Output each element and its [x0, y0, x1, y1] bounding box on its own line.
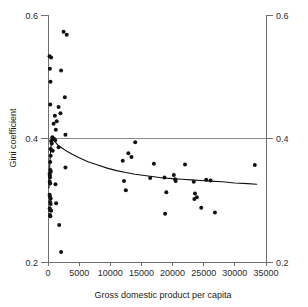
data-point	[55, 119, 59, 123]
x-tick-label: 0	[45, 268, 50, 278]
data-point	[57, 105, 61, 109]
data-point	[253, 163, 257, 167]
x-tick-label: 30000	[222, 268, 247, 278]
data-point	[63, 95, 67, 99]
data-point	[53, 138, 57, 142]
tick-marks	[41, 15, 273, 266]
data-point	[122, 179, 126, 183]
data-point	[52, 122, 56, 126]
data-point	[48, 103, 52, 107]
data-point	[65, 33, 69, 37]
data-point	[199, 206, 203, 210]
data-point	[53, 114, 57, 118]
data-point	[54, 201, 58, 205]
y-tick-labels-left: 0.20.40.6	[25, 11, 38, 268]
data-point	[62, 30, 66, 34]
data-point	[174, 179, 178, 183]
data-point	[59, 250, 63, 254]
data-point	[164, 190, 168, 194]
data-point	[193, 191, 197, 195]
data-point	[152, 162, 156, 166]
data-point	[63, 133, 67, 137]
x-tick-labels: 05000100001500020000250003000035000	[45, 268, 278, 278]
y-tick-label-left: 0.2	[25, 258, 38, 268]
data-point	[54, 128, 58, 132]
data-point	[192, 197, 196, 201]
data-point	[48, 214, 52, 218]
data-point	[133, 140, 137, 144]
data-point	[48, 182, 52, 186]
scatter-points	[48, 30, 257, 254]
data-point	[49, 209, 53, 213]
x-tick-label: 20000	[160, 268, 185, 278]
data-point	[49, 154, 53, 158]
y-tick-label-right: 0.6	[276, 11, 289, 21]
y-axis-title: Gini coefficient	[8, 108, 18, 167]
y-tick-labels-right: 0.20.40.6	[276, 11, 289, 268]
data-point	[63, 166, 67, 170]
data-point	[183, 162, 187, 166]
chart-canvas: 05000100001500020000250003000035000 0.20…	[0, 0, 308, 307]
data-point	[162, 175, 166, 179]
y-tick-label-right: 0.4	[276, 134, 289, 144]
y-tick-label-left: 0.6	[25, 11, 38, 21]
data-point	[49, 56, 53, 60]
data-point	[129, 155, 133, 159]
data-point	[57, 223, 61, 227]
data-point	[53, 182, 57, 186]
data-point	[213, 211, 217, 215]
data-point	[48, 160, 52, 164]
data-point	[57, 145, 61, 149]
data-point	[59, 69, 63, 73]
x-tick-label: 10000	[98, 268, 123, 278]
data-point	[48, 175, 52, 179]
data-point	[172, 173, 176, 177]
data-point	[49, 202, 53, 206]
data-point	[121, 159, 125, 163]
data-point	[124, 188, 128, 192]
y-tick-label-left: 0.4	[25, 134, 38, 144]
data-point	[50, 141, 54, 145]
data-point	[192, 180, 196, 184]
data-point	[209, 178, 213, 182]
data-point	[126, 151, 130, 155]
data-point	[48, 80, 52, 84]
data-point	[163, 212, 167, 216]
data-point	[148, 176, 152, 180]
data-point	[58, 111, 62, 115]
gini-gdp-scatter-figure: 05000100001500020000250003000035000 0.20…	[0, 0, 308, 307]
data-point	[49, 196, 53, 200]
x-tick-label: 15000	[129, 268, 154, 278]
data-point	[48, 67, 52, 71]
x-tick-label: 25000	[191, 268, 216, 278]
y-tick-label-right: 0.2	[276, 258, 289, 268]
data-point	[51, 149, 55, 153]
data-point	[204, 178, 208, 182]
x-axis-title: Gross domestic product per capita	[94, 290, 231, 300]
x-tick-label: 5000	[69, 268, 89, 278]
x-tick-label: 35000	[253, 268, 278, 278]
